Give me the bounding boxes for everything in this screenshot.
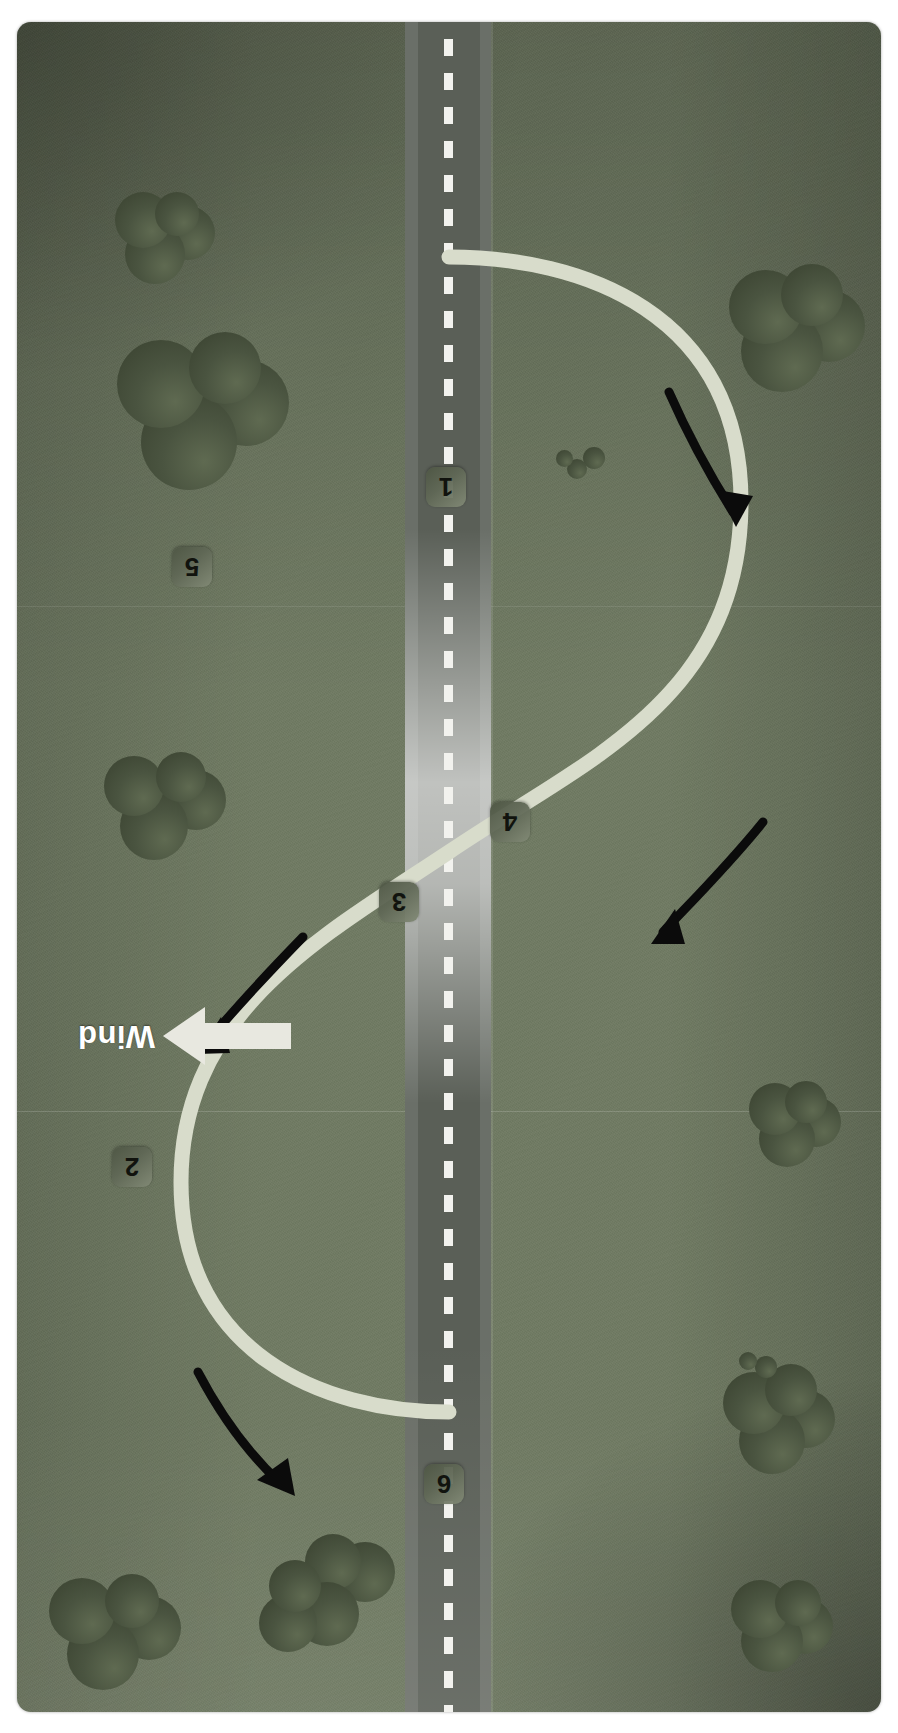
wind-arrow-right-icon xyxy=(163,1005,291,1067)
waypoint-marker-5[interactable]: 5 xyxy=(172,547,212,587)
bush-cluster xyxy=(723,1572,833,1672)
wind-label: Wind xyxy=(78,1018,155,1054)
bush-cluster xyxy=(741,1067,841,1167)
waypoint-marker-2[interactable]: 2 xyxy=(112,1147,152,1187)
wind-indicator: Wind xyxy=(78,1005,291,1067)
bush-cluster xyxy=(255,1517,395,1652)
waypoint-marker-1[interactable]: 1 xyxy=(426,467,466,507)
waypoint-label: 6 xyxy=(437,1471,451,1497)
waypoint-marker-6[interactable]: 6 xyxy=(424,1464,464,1504)
waypoint-label: 2 xyxy=(125,1154,139,1180)
bush-cluster xyxy=(86,730,226,860)
bush-cluster xyxy=(99,310,289,490)
bush-cluster xyxy=(105,179,215,284)
bush-cluster xyxy=(31,1550,181,1690)
scene: 6 5 4 3 2 1 Wind xyxy=(17,22,881,1712)
scene-rotated-wrapper: 6 5 4 3 2 1 Wind xyxy=(17,22,881,1712)
waypoint-label: 4 xyxy=(503,809,517,835)
waypoint-marker-3[interactable]: 3 xyxy=(379,882,419,922)
illustration-canvas: 6 5 4 3 2 1 Wind xyxy=(0,0,898,1733)
waypoint-label: 3 xyxy=(392,889,406,915)
bush-cluster xyxy=(547,443,605,479)
waypoint-marker-4[interactable]: 4 xyxy=(490,802,530,842)
bush-cluster xyxy=(705,242,865,392)
direction-arrow-icon xyxy=(198,1372,295,1496)
waypoint-label: 5 xyxy=(185,554,199,580)
bush-cluster xyxy=(710,1344,835,1474)
direction-arrow-icon xyxy=(651,822,763,944)
waypoint-label: 1 xyxy=(439,474,453,500)
